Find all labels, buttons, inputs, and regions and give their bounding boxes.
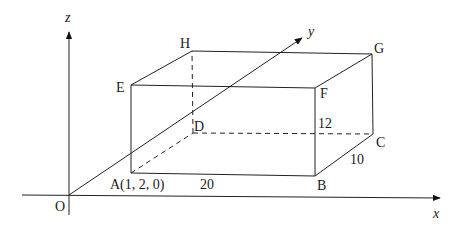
dimension-bc: 10	[350, 152, 364, 167]
edge-EH	[131, 51, 192, 85]
edge-AD	[131, 133, 193, 173]
edge-DH	[192, 51, 193, 133]
y-axis	[69, 38, 302, 195]
z-axis-label: z	[64, 10, 71, 25]
vertex-label-a: A(1, 2, 0)	[110, 177, 165, 193]
vertex-label-f: F	[320, 86, 328, 101]
vertex-label-e: E	[116, 80, 125, 95]
edge-FG	[315, 54, 372, 88]
edge-CG	[372, 54, 373, 134]
coordinate-box-diagram: z y x O H E G F D C B A(1, 2, 0) 20 10 1…	[0, 0, 461, 228]
edge-EF	[131, 85, 315, 88]
edge-DC	[193, 133, 373, 134]
vertex-label-h: H	[180, 36, 190, 51]
dimension-ab: 20	[200, 177, 214, 192]
vertex-label-g: G	[374, 41, 384, 56]
x-axis-label: x	[432, 206, 440, 221]
edge-AB	[131, 173, 315, 176]
vertex-label-d: D	[194, 119, 204, 134]
y-axis-label: y	[306, 24, 315, 39]
origin-label: O	[55, 199, 65, 214]
edge-BC	[315, 134, 373, 176]
vertex-label-b: B	[317, 178, 326, 193]
vertex-label-c: C	[376, 135, 385, 150]
dimension-bf: 12	[318, 116, 332, 131]
x-axis	[22, 195, 440, 198]
